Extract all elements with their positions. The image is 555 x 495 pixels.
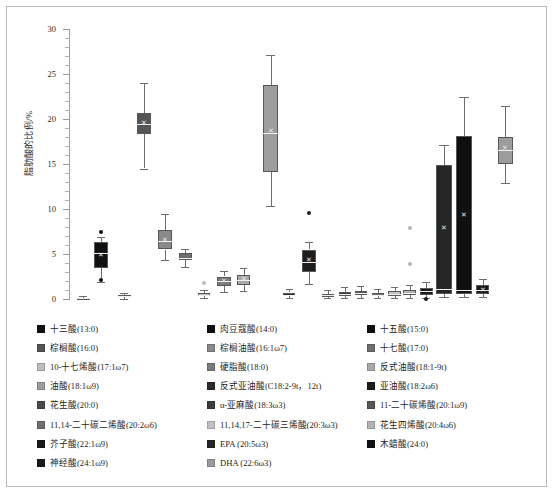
legend-label: α-亚麻酸(18:3ω3) [220,400,285,410]
legend-item[interactable]: EPA (20:5ω3) [207,434,268,453]
legend-label: 木蜡酸(24:0) [380,439,428,449]
cap-lower [374,298,381,299]
cap-lower [181,267,189,268]
cap-upper [406,285,413,286]
legend-swatch [207,363,215,371]
median-line [322,295,334,296]
whisker-upper [505,106,506,137]
legend-label: 芥子酸(22:1ω9) [50,439,108,449]
median-line [118,296,131,297]
y-tick-minor [65,236,70,237]
cap-lower [286,298,293,299]
chart-legend: 十三酸(13:0)肉豆蔻酸(14:0)十五酸(15:0)棕榈酸(16:0)棕榈油… [37,319,537,479]
cap-lower [324,298,331,299]
cap-lower [479,297,487,298]
y-tick-minor [65,146,70,147]
legend-swatch [37,325,45,333]
y-tick-minor [65,290,70,291]
mean-marker: ✕ [162,236,168,243]
legend-swatch [37,344,45,352]
outlier-point [424,297,428,301]
legend-label: 神经酸(24:1ω9) [50,458,108,468]
y-tick-minor [65,227,70,228]
outlier-point [408,262,412,266]
y-tick-minor [65,83,70,84]
mean-marker: ✕ [141,119,147,126]
y-tick-major: 20 [63,119,70,120]
y-tick-major: 30 [63,29,70,30]
whisker-upper [444,145,445,165]
cap-lower [220,292,228,293]
median-line [456,290,472,291]
median-line [283,295,295,296]
legend-item[interactable]: 反式油酸(18:1-9t) [367,357,447,376]
y-tick-minor [65,173,70,174]
mean-marker: ✕ [480,286,486,293]
legend-label: 花生酸(20:0) [50,400,98,410]
whisker-lower [144,134,145,168]
legend-item[interactable]: 硬脂酸(18:0) [207,357,268,376]
legend-item[interactable]: 木蜡酸(24:0) [367,434,428,453]
legend-label: EPA (20:5ω3) [220,439,268,449]
legend-item[interactable]: 油酸(18:1ω9) [37,377,99,396]
legend-item[interactable]: α-亚麻酸(18:3ω3) [207,396,285,415]
y-tick-minor [65,137,70,138]
median-line [179,258,192,259]
cap-upper [439,145,449,146]
y-tick-label: 30 [48,24,57,34]
median-line [77,298,90,299]
y-tick-label: 25 [48,69,57,79]
y-tick-minor [65,245,70,246]
chart-area: 脂肪酸的比例/% 051015202530 ✕✕✕✕✕✕✕✕✕✕✕ [7,7,548,307]
legend-label: 硬脂酸(18:0) [220,362,268,372]
legend-item[interactable]: 十五酸(15:0) [367,319,428,338]
mean-marker: ✕ [306,257,312,264]
legend-swatch [367,440,375,448]
legend-item[interactable]: 棕榈油酸(16:1ω7) [207,338,287,357]
legend-swatch [367,421,375,429]
y-tick-minor [65,128,70,129]
cap-lower [439,297,449,298]
cap-lower [140,169,148,170]
cap-lower [200,298,207,299]
legend-label: 亚油酸(18:2ω6) [380,381,438,391]
legend-swatch [367,401,375,409]
cap-upper [266,55,275,56]
legend-item[interactable]: DHA (22:6ω3) [207,453,271,472]
legend-item[interactable]: 棕榈酸(16:0) [37,338,98,357]
legend-item[interactable]: 十三酸(13:0) [37,319,98,338]
cap-upper [161,214,169,215]
legend-item[interactable]: 肉豆蔻酸(14:0) [207,319,277,338]
legend-item[interactable]: 亚油酸(18:2ω6) [367,377,438,396]
y-tick-minor [65,272,70,273]
legend-item[interactable]: 十七酸(17:0) [367,338,428,357]
median-line [372,295,384,296]
cap-upper [357,286,364,287]
cap-upper [140,83,148,84]
legend-item[interactable]: 11-二十碳烯酸(20:1ω9) [367,396,467,415]
legend-swatch [37,440,45,448]
y-tick-major: 25 [63,74,70,75]
legend-item[interactable]: 芥子酸(22:1ω9) [37,434,108,453]
y-tick-minor [65,47,70,48]
legend-swatch [207,440,215,448]
cap-lower [240,291,248,292]
outlier-point [408,226,412,230]
legend-item[interactable]: 花生四烯酸(20:4ω6) [367,415,456,434]
legend-item[interactable]: 反式亚油酸(C18:2-9t，12t) [207,377,321,396]
legend-item[interactable]: 神经酸(24:1ω9) [37,453,108,472]
cap-upper [220,271,228,272]
legend-swatch [367,382,375,390]
legend-item[interactable]: 10-十七烯酸(17:1ω7) [37,357,128,376]
legend-item[interactable]: 11,14-二十碳二烯酸(20:2ω6) [37,415,157,434]
median-line [388,294,400,295]
legend-label: 油酸(18:1ω9) [50,381,99,391]
legend-swatch [207,344,215,352]
mean-marker: ✕ [502,144,508,151]
cap-upper [305,242,313,243]
mean-marker: ✕ [268,127,274,134]
whisker-upper [464,97,465,137]
legend-item[interactable]: 11,14,17-二十碳三烯酸(20:3ω3) [207,415,338,434]
legend-item[interactable]: 花生酸(20:0) [37,396,98,415]
median-line [420,291,433,292]
